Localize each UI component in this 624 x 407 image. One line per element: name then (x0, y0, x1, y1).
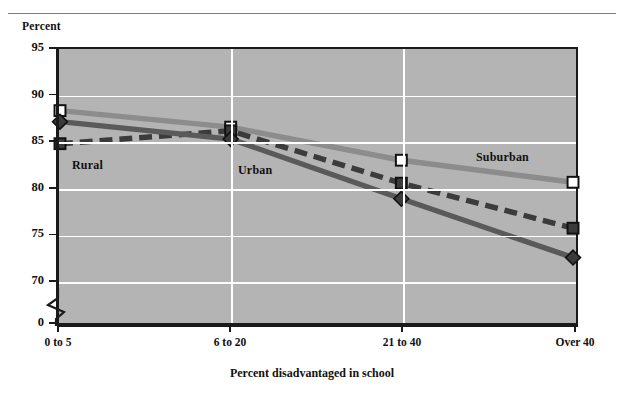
y-tick-75 (49, 234, 57, 236)
y-tick-label-75: 75 (14, 226, 44, 241)
gridline-x-2 (403, 49, 405, 323)
y-tick-90 (49, 94, 57, 96)
x-tick-0 (57, 324, 59, 332)
gridline-y-80 (59, 189, 576, 191)
y-tick-85 (49, 140, 57, 142)
y-axis-title: Percent (22, 20, 61, 32)
y-tick-label-85: 85 (14, 133, 44, 148)
gridline-x-1 (231, 49, 233, 323)
x-tick-1 (229, 324, 231, 332)
x-tick-label-3: Over 40 (530, 336, 620, 348)
gridline-y-85 (59, 142, 576, 144)
y-tick-label-70: 70 (14, 273, 44, 288)
datapoint-suburban-2 (396, 155, 407, 166)
x-axis-title: Percent disadvantaged in school (0, 366, 624, 381)
y-tick-label-0: 0 (14, 315, 44, 330)
datapoint-rural-3 (568, 223, 579, 234)
datapoint-suburban-3 (568, 177, 579, 188)
y-tick-label-80: 80 (14, 180, 44, 195)
gridline-y-75 (59, 236, 576, 238)
x-tick-2 (401, 324, 403, 332)
series-label-urban: Urban (238, 163, 272, 178)
x-axis-line (57, 324, 578, 327)
x-tick-label-0: 0 to 5 (13, 336, 103, 348)
x-tick-label-1: 6 to 20 (185, 336, 275, 348)
axis-break-icon (44, 288, 68, 326)
datapoint-rural-2 (396, 178, 407, 189)
y-tick-label-90: 90 (14, 87, 44, 102)
line-chart: Percent 95908580757000 to 56 to 2021 to … (0, 0, 624, 407)
series-label-suburban: Suburban (476, 150, 529, 165)
y-tick-0 (49, 322, 57, 324)
y-tick-70 (49, 280, 57, 282)
y-tick-95 (49, 47, 57, 49)
gridline-y-90 (59, 96, 576, 98)
datapoint-urban-2 (394, 191, 409, 206)
y-tick-80 (49, 187, 57, 189)
x-tick-label-2: 21 to 40 (357, 336, 447, 348)
gridline-y-70 (59, 282, 576, 284)
datapoint-urban-3 (566, 250, 581, 265)
x-tick-3 (574, 324, 576, 332)
series-label-rural: Rural (72, 158, 103, 173)
y-tick-label-95: 95 (14, 40, 44, 55)
plot-area (57, 47, 578, 325)
